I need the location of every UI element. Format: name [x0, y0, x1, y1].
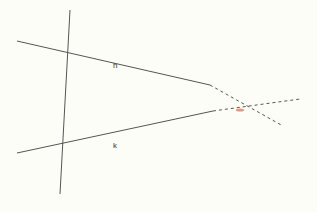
transversal-line: [60, 10, 70, 194]
geometry-figure: h k: [0, 0, 317, 212]
line-k-extension: [213, 99, 300, 111]
intersection-point: [236, 109, 244, 112]
line-h-extension: [210, 85, 283, 126]
label-h: h: [113, 61, 117, 70]
diagram-canvas: h k: [0, 0, 317, 212]
label-k: k: [113, 141, 118, 150]
